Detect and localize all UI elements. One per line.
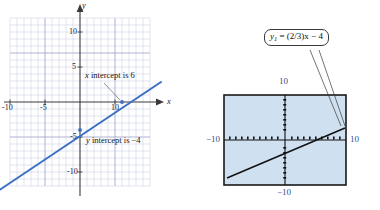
x-tick-label-neg10: -10 <box>2 104 13 112</box>
figure-root: y x -10 -5 10 10 5 -5 -10 x intercept is… <box>0 0 380 210</box>
y-tick-label-neg5: -5 <box>70 133 77 141</box>
y-axis-name-label: y <box>82 1 86 10</box>
x-axis-name-label: x <box>167 97 171 106</box>
y-intercept-annotation-text: intercept is −4 <box>90 135 141 145</box>
x-intercept-annotation-text: intercept is 6 <box>89 70 135 80</box>
screen-label-top: 10 <box>279 77 288 86</box>
x-tick-label-neg5: -5 <box>40 104 47 112</box>
y-tick-label-5: 5 <box>72 63 76 71</box>
y-tick-label-neg10: -10 <box>67 168 78 176</box>
right-calculator-panel: y1 = (2/3)x − 4 10 −10 10 −10 <box>200 0 380 210</box>
x-intercept-annotation: x intercept is 6 <box>85 71 135 80</box>
y-intercept-point <box>78 128 82 132</box>
screen-label-right: 10 <box>350 135 359 144</box>
screen-label-left: −10 <box>206 135 220 144</box>
screen-label-bottom: −10 <box>277 188 291 197</box>
left-graph-panel: y x -10 -5 10 10 5 -5 -10 x intercept is… <box>0 0 200 210</box>
callout-rhs: = (2/3)x − 4 <box>277 31 323 41</box>
y-intercept-annotation: y intercept is −4 <box>86 136 141 145</box>
x-intercept-point <box>120 100 124 104</box>
x-intercept-leader <box>104 83 120 100</box>
x-axis-arrow <box>156 99 164 106</box>
x-tick-label-10: 10 <box>111 104 119 112</box>
equation-callout: y1 = (2/3)x − 4 <box>264 29 329 46</box>
y-tick-label-10: 10 <box>69 28 77 36</box>
